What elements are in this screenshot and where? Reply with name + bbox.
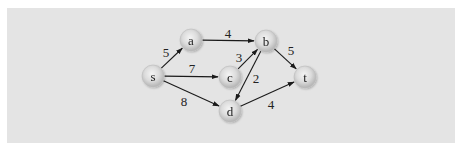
edge-a-b: 4 [202, 26, 254, 41]
edge-c-b: 3 [236, 49, 258, 68]
edge-weight-label: 8 [181, 94, 188, 109]
graph-canvas: 54735284 sabcdt [0, 0, 468, 148]
edge-arrow [163, 81, 219, 106]
node-a: a [180, 29, 202, 51]
node-label: a [188, 33, 194, 48]
node-t: t [294, 66, 316, 88]
node-label: d [227, 104, 234, 119]
node-label: b [263, 34, 270, 49]
edge-weight-label: 5 [163, 45, 170, 60]
edge-weight-label: 2 [253, 71, 260, 86]
edge-s-d: 8 [163, 81, 219, 109]
node-c: c [219, 66, 241, 88]
node-b: b [255, 30, 277, 52]
edge-weight-label: 5 [288, 43, 295, 58]
edge-weight-label: 7 [189, 61, 196, 76]
edge-s-a: 5 [161, 45, 182, 69]
edge-weight-label: 4 [225, 26, 232, 41]
edge-weight-label: 4 [268, 97, 275, 112]
edge-weight-label: 3 [236, 50, 243, 65]
edge-d-t: 4 [240, 82, 294, 112]
edge-s-c: 7 [164, 61, 218, 77]
node-label: t [303, 70, 307, 85]
node-label: s [150, 69, 155, 84]
edge-b-t: 5 [274, 43, 296, 69]
edge-arrow [164, 76, 218, 77]
node-s: s [142, 65, 164, 87]
node-d: d [219, 100, 241, 122]
node-label: c [227, 70, 233, 85]
